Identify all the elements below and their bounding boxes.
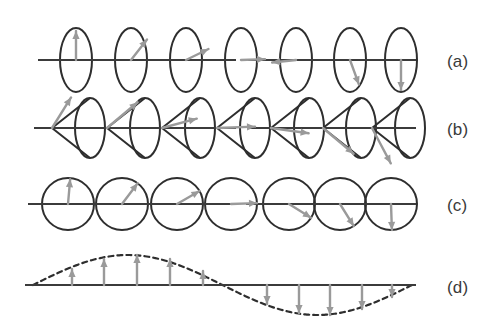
row-d [25,255,416,315]
field-vector-6-head [263,296,270,304]
row-label-c: (c) [447,196,467,216]
row-label-a: (a) [447,52,468,72]
field-vector-7-head [295,305,302,313]
figure-canvas [0,0,499,326]
field-vector-4-head [249,200,257,207]
field-vector-1-head [68,269,75,277]
row-b [34,97,425,163]
field-vector-7-head [388,222,395,230]
row-label-d: (d) [447,278,468,298]
row-a [38,28,417,92]
field-vector-4-head [247,123,255,130]
field-vector-7-head [397,82,404,90]
row-label-b: (b) [447,120,468,140]
field-vector-4-head [257,56,265,63]
field-vector-2-head [100,259,107,267]
polarization-figure: (a) (b) (c) (d) [0,0,499,326]
row-c [28,178,417,230]
field-vector-1-head [72,31,79,39]
field-vector-6-head [353,76,360,85]
